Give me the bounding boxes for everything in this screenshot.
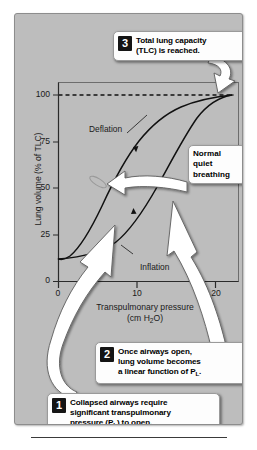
- callout-1[interactable]: 1 Collapsed airways require significant …: [47, 393, 220, 425]
- x-tick-label-0: 0: [46, 288, 70, 298]
- y-tick-label-100: 100: [24, 89, 50, 99]
- inflation-label: Inflation: [140, 262, 169, 272]
- x-axis-units: (cm H2O): [127, 313, 163, 323]
- y-tick-label-0: 0: [24, 275, 50, 285]
- callout-1-text: Collapsed airways require significant tr…: [70, 398, 171, 425]
- callout-2-text-main: Once airways open, lung volume becomes a…: [118, 347, 201, 376]
- figure-card: 100 75 50 25 0 0 10 20 Lung volume (% of…: [14, 13, 243, 425]
- deflation-label: Deflation: [89, 124, 122, 134]
- inflation-direction-arrow: [131, 208, 137, 214]
- callout-2[interactable]: 2 Once airways open, lung volume becomes…: [95, 342, 243, 384]
- callout-normal-breathing[interactable]: Normal quiet breathing: [188, 145, 243, 184]
- callout-3-arrow: [208, 56, 235, 93]
- x-tick-label-20: 20: [204, 288, 228, 298]
- tidal-breathing-loop: [88, 174, 108, 190]
- callout-1-number: 1: [52, 398, 66, 413]
- inflation-leader-line: [121, 245, 133, 254]
- x-tick-label-10: 10: [125, 288, 149, 298]
- x-axis-label-text: Transpulmonary pressure: [96, 302, 194, 312]
- normal-breathing-text: Normal quiet breathing: [193, 149, 241, 180]
- callout-2-text-tail: .: [199, 367, 201, 376]
- callout-2-number: 2: [100, 347, 114, 362]
- callout-3-text: Total lung capacity (TLC) is reached.: [136, 36, 206, 56]
- x-axis-label: Transpulmonary pressure (cm H2O): [55, 302, 235, 326]
- callout-3-number: 3: [118, 36, 132, 51]
- deflation-leader-line: [127, 115, 147, 133]
- callout-3[interactable]: 3 Total lung capacity (TLC) is reached.: [113, 31, 243, 61]
- y-axis-label: Lung volume (% of TLC): [33, 114, 43, 244]
- callout-2-arrow: [167, 201, 227, 351]
- normal-breathing-arrow: [107, 171, 187, 195]
- callout-2-text: Once airways open, lung volume becomes a…: [118, 347, 201, 379]
- callout-1-text-tail: ) to open.: [117, 418, 152, 425]
- bottom-rule: [31, 437, 227, 438]
